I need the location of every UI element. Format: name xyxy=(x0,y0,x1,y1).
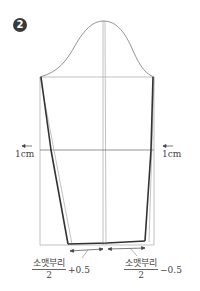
sleeve-pattern-diagram xyxy=(0,0,200,291)
hem-dimension-arrows xyxy=(70,247,145,258)
hem-right-formula: 소맷부리 2 −0.5 xyxy=(124,258,182,281)
hem-left-formula: 소맷부리 2 +0.5 xyxy=(32,258,90,281)
hem-line xyxy=(68,241,145,244)
hem-right-numerator: 소맷부리 xyxy=(124,258,158,269)
hem-right-suffix: −0.5 xyxy=(160,265,182,275)
hem-left-suffix: +0.5 xyxy=(68,265,90,275)
pattern-outline xyxy=(41,77,153,244)
center-line-2 xyxy=(105,21,106,245)
step-number-badge: 2 xyxy=(13,18,27,32)
guide-lines xyxy=(40,21,154,245)
sleeve-cap-curve xyxy=(40,21,154,77)
left-leader-line xyxy=(82,250,88,258)
right-leader-line xyxy=(130,248,137,256)
elbow-right-label: 1cm xyxy=(162,149,181,159)
hem-right-denominator: 2 xyxy=(138,270,144,281)
hem-left-denominator: 2 xyxy=(46,270,52,281)
elbow-left-label: 1cm xyxy=(15,149,34,159)
left-seam xyxy=(41,77,68,244)
hem-left-numerator: 소맷부리 xyxy=(32,258,66,269)
